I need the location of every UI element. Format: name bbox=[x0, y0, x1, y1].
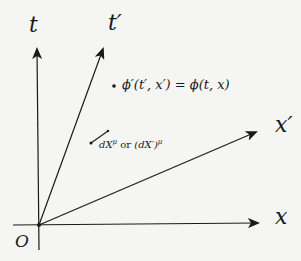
displacement-start-dot bbox=[90, 142, 93, 145]
displacement-end-dot bbox=[107, 130, 109, 132]
dx-prime-text: (dX′) bbox=[134, 139, 158, 150]
t-axis-label: t bbox=[29, 14, 38, 36]
spacetime-diagram: t t′ x′ x O ϕ′(t′, x′) = ϕ(t, x) dXμ or … bbox=[0, 0, 301, 261]
mu-superscript-2: μ bbox=[158, 138, 163, 146]
axes-drawing bbox=[0, 0, 301, 261]
or-text: or bbox=[117, 139, 134, 150]
displacement-label: dXμ or (dX′)μ bbox=[99, 139, 162, 150]
t-axis bbox=[37, 49, 39, 250]
field-point-dot bbox=[112, 84, 116, 88]
t-prime-axis bbox=[39, 49, 103, 225]
x-prime-axis-label: x′ bbox=[275, 114, 292, 136]
x-axis bbox=[13, 223, 258, 225]
origin-label: O bbox=[15, 233, 29, 250]
t-prime-axis-label: t′ bbox=[108, 12, 122, 34]
origin-dot bbox=[37, 223, 41, 227]
x-axis-label: x bbox=[275, 206, 287, 228]
dx-text: dX bbox=[99, 139, 113, 150]
field-transformation-label: ϕ′(t′, x′) = ϕ(t, x) bbox=[122, 78, 230, 91]
